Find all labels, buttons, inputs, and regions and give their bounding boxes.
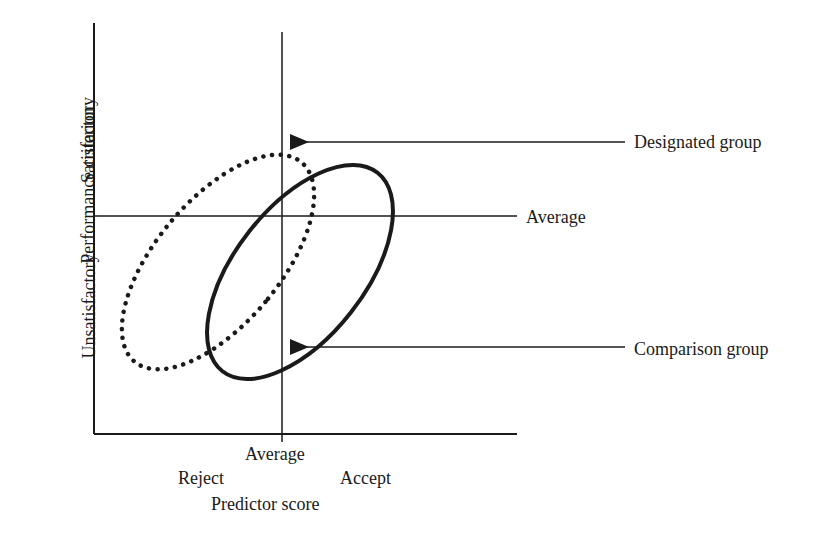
x-axis-center-label: Average bbox=[245, 444, 305, 464]
selection-bias-diagram: Performance criterion Satisfactory Unsat… bbox=[0, 0, 827, 538]
x-axis-title: Predictor score bbox=[211, 494, 319, 514]
designated-group-label: Designated group bbox=[634, 132, 761, 152]
x-axis-left-label: Reject bbox=[178, 468, 224, 488]
comparison-group-label: Comparison group bbox=[634, 339, 769, 359]
horizontal-average-label: Average bbox=[526, 207, 586, 227]
diagram-canvas bbox=[0, 0, 827, 538]
y-axis-lower-label: Unsatisfactory bbox=[79, 231, 99, 381]
comparison-group-ellipse bbox=[171, 133, 429, 412]
x-axis-right-label: Accept bbox=[340, 468, 391, 488]
y-axis-upper-label: Satisfactory bbox=[78, 80, 98, 200]
designated-group-ellipse bbox=[87, 123, 349, 402]
